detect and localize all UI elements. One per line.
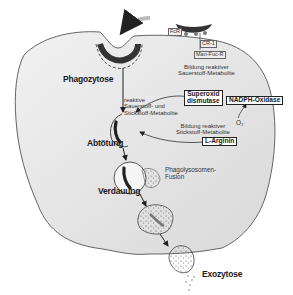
uptake-arrow bbox=[122, 18, 150, 32]
exocytosis-vesicle bbox=[169, 246, 194, 273]
stage-killing: Abtötung bbox=[87, 139, 123, 148]
cr1-label: CR-1 bbox=[200, 40, 217, 48]
l-arginine-box: L-Arginin bbox=[202, 137, 237, 146]
rns-formation-label: Bildung reaktiver Stickstoff-Metabolite bbox=[176, 123, 230, 136]
stage-exocytosis: Exozytose bbox=[202, 270, 242, 279]
superoxide-dismutase-box: Superoxid dismutase bbox=[184, 90, 223, 106]
phagocytosis-diagram bbox=[0, 0, 293, 295]
ros-formation-label: Bildung reaktiver Sauerstoff-Metabolite bbox=[178, 64, 235, 77]
stage-digestion: Verdauung bbox=[98, 187, 140, 196]
reactive-metabolites-label: reaktive Sauerstoff- und Stickstoff-Meta… bbox=[124, 97, 178, 116]
o2-label: O₂ bbox=[236, 120, 243, 127]
fcr-label: FcR bbox=[168, 28, 182, 36]
stage-phagocytosis: Phagozytose bbox=[63, 75, 113, 84]
manfuc-label: Man-Fuc-R bbox=[194, 51, 226, 59]
released-particles bbox=[185, 275, 194, 290]
fusion-label: Phagolysosomen- Fusion bbox=[165, 167, 216, 180]
nadph-oxidase-box: NADPH-Oxidase bbox=[226, 96, 283, 105]
